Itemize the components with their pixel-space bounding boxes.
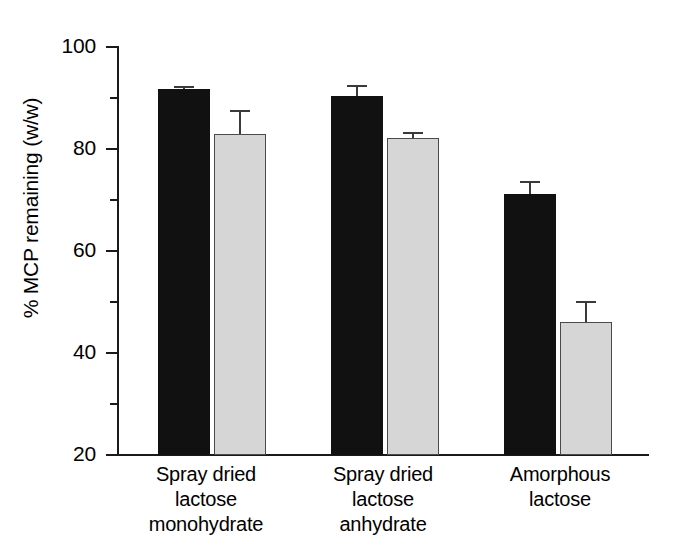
x-category-1: Spray dried lactose monohydrate <box>118 462 294 537</box>
error-bar-cap-grey-series-group3 <box>576 301 596 303</box>
bar-black-series-group3 <box>504 194 556 455</box>
y-tick-20 <box>106 454 117 456</box>
bar-black-series-group1 <box>158 89 210 455</box>
y-axis-title: % MCP remaining (w/w) <box>19 8 43 408</box>
y-tick-80 <box>106 148 117 150</box>
x-category-1-line1: Spray dried <box>118 462 294 487</box>
x-category-3: Amorphous lactose <box>472 462 648 512</box>
error-bar-stem-grey-series-group1 <box>239 110 241 134</box>
x-category-3-line1: Amorphous <box>472 462 648 487</box>
x-category-labels: Spray dried lactose monohydrate Spray dr… <box>118 462 648 552</box>
y-minor-tick-30 <box>110 403 117 405</box>
y-tick-label-80: 80 <box>52 137 96 158</box>
y-tick-40 <box>106 352 117 354</box>
y-minor-tick-90 <box>110 97 117 99</box>
x-category-3-line2: lactose <box>472 487 648 512</box>
y-tick-label-20: 20 <box>52 443 96 464</box>
error-bar-stem-grey-series-group3 <box>585 301 587 322</box>
y-tick-label-60: 60 <box>52 239 96 260</box>
x-category-1-line2: lactose <box>118 487 294 512</box>
x-category-2-line2: lactose <box>295 487 471 512</box>
error-bar-cap-grey-series-group1 <box>230 110 250 112</box>
y-minor-tick-70 <box>110 199 117 201</box>
y-tick-label-40: 40 <box>52 341 96 362</box>
bar-chart-figure: % MCP remaining (w/w) 100 80 60 40 20 Sp… <box>0 0 675 552</box>
bar-grey-series-group2 <box>387 138 439 455</box>
y-tick-100 <box>106 46 117 48</box>
y-tick-60 <box>106 250 117 252</box>
plot-area <box>118 46 648 455</box>
error-bar-cap-black-series-group1 <box>174 86 194 88</box>
bar-grey-series-group3 <box>560 322 612 455</box>
x-category-1-line3: monohydrate <box>118 512 294 537</box>
bar-grey-series-group1 <box>214 134 266 455</box>
error-bar-cap-grey-series-group2 <box>403 132 423 134</box>
error-bar-cap-black-series-group3 <box>520 181 540 183</box>
y-minor-tick-50 <box>110 301 117 303</box>
x-category-2: Spray dried lactose anhydrate <box>295 462 471 537</box>
y-tick-label-100: 100 <box>52 35 96 56</box>
bar-black-series-group2 <box>331 96 383 455</box>
x-category-2-line3: anhydrate <box>295 512 471 537</box>
x-category-2-line1: Spray dried <box>295 462 471 487</box>
error-bar-cap-black-series-group2 <box>347 85 367 87</box>
